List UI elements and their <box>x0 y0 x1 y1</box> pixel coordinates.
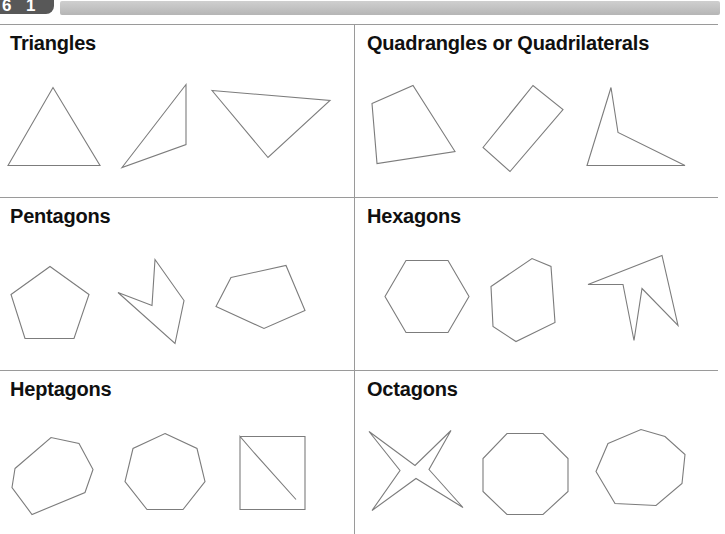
cell-octagons: Octagons <box>355 371 709 534</box>
shape-irregular-octagon <box>596 430 685 506</box>
shape-four-pointed-star-octagon <box>369 431 463 511</box>
polygon-worksheet-grid: Triangles Quadrangles or Quadrilaterals … <box>0 24 725 534</box>
shape-thin-scalene-triangle <box>122 85 186 168</box>
shape-row-heptagons <box>0 409 354 534</box>
shapes-quadrangles <box>355 63 709 193</box>
shape-row-hexagons <box>355 236 709 366</box>
shape-irregular-quadrilateral <box>372 86 455 164</box>
cell-hexagons: Hexagons <box>355 198 709 371</box>
shape-obtuse-triangle <box>212 91 330 158</box>
shapes-octagons <box>355 409 709 534</box>
shape-row-octagons <box>355 409 709 534</box>
shape-regular-heptagon <box>125 434 205 510</box>
cell-title-quadrangles: Quadrangles or Quadrilaterals <box>367 32 649 55</box>
shape-irregular-hexagon <box>491 259 555 342</box>
shape-regular-octagon <box>483 434 568 515</box>
shape-irregular-pentagon <box>216 266 305 329</box>
scan-top-band: 6 1 <box>0 0 725 24</box>
shape-equilateral-triangle <box>8 88 100 166</box>
cell-heptagons: Heptagons <box>0 371 354 534</box>
page-number-badge: 6 1 <box>0 0 54 14</box>
shape-row-triangles <box>0 63 354 193</box>
cell-title-heptagons: Heptagons <box>10 378 112 401</box>
shape-concave-spiky-hexagon <box>588 256 678 341</box>
shape-regular-pentagon <box>11 267 89 339</box>
shape-concave-notched-heptagon <box>240 437 305 510</box>
cell-title-pentagons: Pentagons <box>10 205 110 228</box>
shapes-pentagons <box>0 236 354 366</box>
shape-row-quadrangles <box>355 63 709 193</box>
shape-row-pentagons <box>0 236 354 366</box>
cell-title-triangles: Triangles <box>10 32 96 55</box>
cell-triangles: Triangles <box>0 25 354 198</box>
shape-tilted-rectangle <box>483 86 563 172</box>
cell-quadrangles: Quadrangles or Quadrilaterals <box>355 25 709 198</box>
shapes-triangles <box>0 63 354 193</box>
page-number-digit-right: 1 <box>26 0 36 14</box>
shape-irregular-heptagon <box>12 438 93 515</box>
cell-title-octagons: Octagons <box>367 378 458 401</box>
shape-concave-dart-quadrilateral <box>587 88 685 166</box>
page-number-digit-left: 6 <box>2 0 12 14</box>
header-rule-strip <box>60 1 720 15</box>
shapes-hexagons <box>355 236 709 366</box>
shape-regular-hexagon <box>385 261 469 333</box>
cell-title-hexagons: Hexagons <box>367 205 461 228</box>
cell-pentagons: Pentagons <box>0 198 354 371</box>
shapes-heptagons <box>0 409 354 534</box>
shape-concave-zigzag-pentagon <box>118 260 184 344</box>
